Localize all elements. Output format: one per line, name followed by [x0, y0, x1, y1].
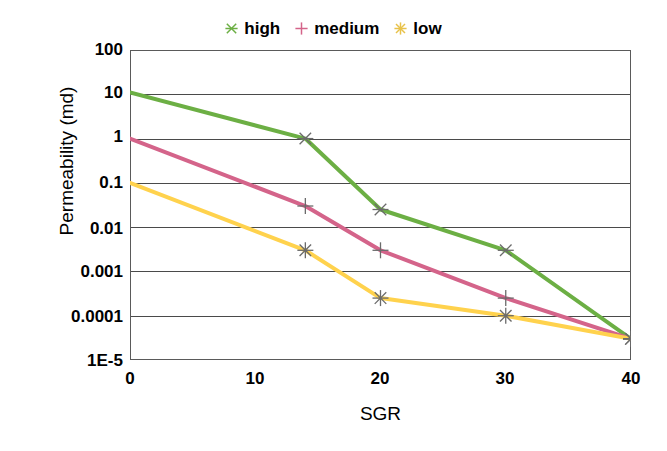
x-axis-ticks: 0 10 20 30 40 — [0, 0, 667, 451]
x-tick-0: 0 — [110, 370, 150, 387]
x-axis-title: SGR — [130, 403, 631, 425]
permeability-sgr-chart: high medium low — [0, 0, 667, 451]
x-tick-40: 40 — [611, 370, 651, 387]
x-tick-10: 10 — [235, 370, 275, 387]
x-tick-30: 30 — [485, 370, 525, 387]
y-axis-title: Permeability (md) — [56, 46, 78, 276]
x-tick-20: 20 — [360, 370, 400, 387]
